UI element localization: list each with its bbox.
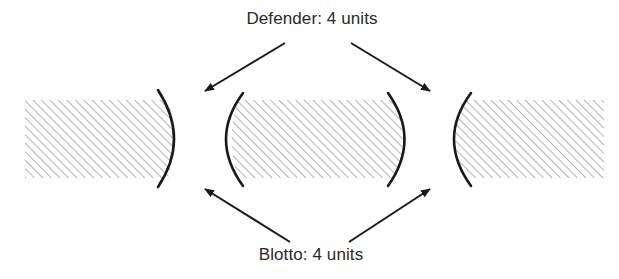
defender-arrow-front-2 (351, 43, 430, 91)
middle-territory (220, 96, 415, 182)
defender-arrow-front-1 (205, 43, 285, 91)
right-territory (445, 96, 610, 182)
blotto-arrow-front-1 (205, 189, 290, 242)
defender-label: Defender: 4 units (246, 9, 377, 29)
blotto-game-diagram (0, 0, 619, 279)
blotto-label: Blotto: 4 units (259, 245, 364, 265)
blotto-arrow-front-2 (349, 189, 430, 242)
left-territory (20, 96, 190, 182)
